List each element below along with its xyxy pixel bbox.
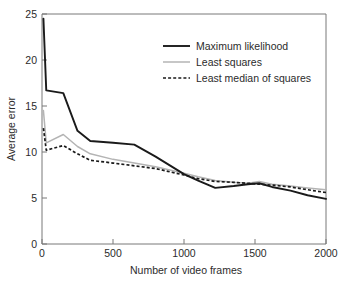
x-tick-label-1000: 1000: [172, 247, 196, 259]
x-tick-label-500: 500: [104, 247, 122, 259]
x-tick-label-2000: 2000: [314, 247, 338, 259]
legend-label-least-median-of-squares: Least median of squares: [196, 72, 311, 84]
x-tick-label-1500: 1500: [243, 247, 267, 259]
y-tick-label-0: 0: [31, 238, 37, 250]
y-tick-label-25: 25: [25, 8, 37, 20]
y-tick-label-10: 10: [25, 146, 37, 158]
y-tick-label-5: 5: [31, 192, 37, 204]
y-tick-label-15: 15: [25, 100, 37, 112]
x-axis-title: Number of video frames: [130, 264, 242, 276]
line-chart: 0 5 10 15 20 25 0 500 1000 1500 2000 Num…: [0, 0, 347, 287]
y-axis-title: Average error: [5, 96, 17, 161]
legend-label-least-squares: Least squares: [196, 56, 262, 68]
legend-label-maximum-likelihood: Maximum likelihood: [196, 40, 288, 52]
y-tick-label-20: 20: [25, 54, 37, 66]
chart-figure: 0 5 10 15 20 25 0 500 1000 1500 2000 Num…: [0, 0, 347, 287]
x-tick-label-0: 0: [39, 247, 45, 259]
